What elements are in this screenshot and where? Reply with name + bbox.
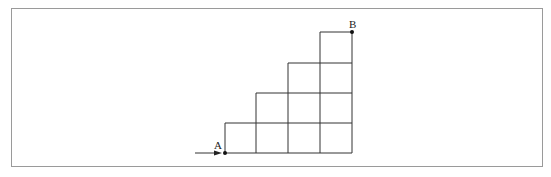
staircase-grid-diagram: A B — [0, 0, 551, 177]
label-b: B — [349, 18, 356, 30]
entry-arrow-head-icon — [214, 151, 222, 156]
grid-lines — [225, 32, 352, 153]
point-a — [223, 151, 227, 155]
point-b — [350, 30, 354, 34]
label-a: A — [214, 139, 222, 151]
